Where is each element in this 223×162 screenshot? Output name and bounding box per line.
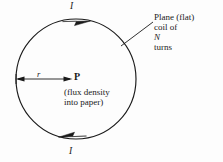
coil-callout-label: Plane (flat) coil of N turns	[154, 12, 194, 52]
coil-diagram: I I r P (flux density into paper) Plane …	[0, 0, 223, 162]
current-arrowhead-bottom-icon	[59, 132, 87, 137]
callout-line-2-suffix: turns	[154, 42, 194, 52]
turns-symbol: N	[154, 32, 194, 42]
flux-density-note: (flux density into paper)	[64, 87, 110, 107]
radius-label: r	[37, 70, 40, 80]
current-label-bottom: I	[69, 146, 72, 157]
current-arrowhead-top-icon	[63, 21, 91, 26]
radius-arrow-right-head-icon	[64, 76, 73, 81]
radius-arrow-left-head-icon	[16, 76, 25, 81]
current-label-top: I	[70, 1, 73, 12]
callout-leader-line	[121, 22, 153, 46]
callout-line-1: Plane (flat)	[154, 12, 194, 22]
point-p-label: P	[74, 71, 80, 82]
callout-line-2-prefix: coil of	[154, 22, 194, 32]
flux-note-line-1: (flux density	[64, 87, 110, 97]
callout-line-2: coil of N turns	[154, 22, 194, 52]
flux-note-line-2: into paper)	[64, 97, 110, 107]
